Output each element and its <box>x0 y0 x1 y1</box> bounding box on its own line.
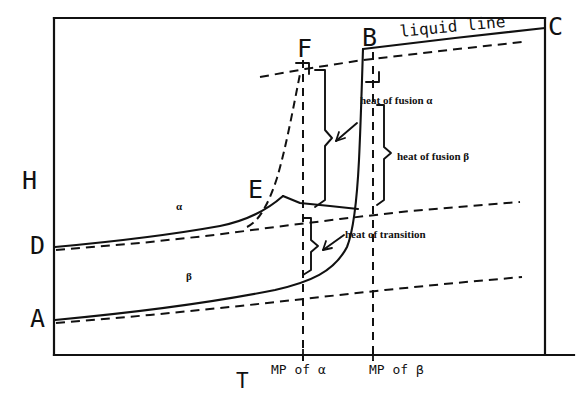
beta-curve-label: β <box>186 271 192 282</box>
heat-of-transition-label: heat of transition <box>345 229 426 240</box>
point-label-b: B <box>362 25 377 50</box>
point-label-a: A <box>30 306 45 331</box>
heat-of-fusion-alpha-brace <box>315 70 332 207</box>
plot-frame <box>54 18 574 355</box>
point-label-d: D <box>30 233 45 258</box>
solid-curves <box>55 28 545 320</box>
mp-of-beta-tick-label: MP of β <box>369 363 424 376</box>
point-label-e: E <box>248 177 263 202</box>
beta-solid-curve <box>55 49 363 320</box>
heat-of-fusion-alpha-label: heat of fusion α <box>360 95 432 106</box>
heat-of-fusion-beta-label: heat of fusion β <box>397 151 469 162</box>
mp-of-alpha-tick-label: MP of α <box>271 363 326 376</box>
heat-of-fusion-beta-brace <box>377 105 391 205</box>
y-axis-label: H <box>22 168 37 193</box>
enthalpy-temperature-diagram <box>0 0 581 416</box>
alpha-metastable-extension-dashed <box>56 202 520 250</box>
point-label-c: C <box>548 14 563 39</box>
heat-of-transition-brace <box>303 218 318 275</box>
diagram-root: H T A B C D E F α β liquid line heat of … <box>0 0 581 416</box>
point-label-f: F <box>297 36 312 61</box>
alpha-curve-label: α <box>176 201 182 212</box>
beta-metastable-extension-dashed <box>56 277 522 323</box>
x-axis-label: T <box>236 371 249 392</box>
